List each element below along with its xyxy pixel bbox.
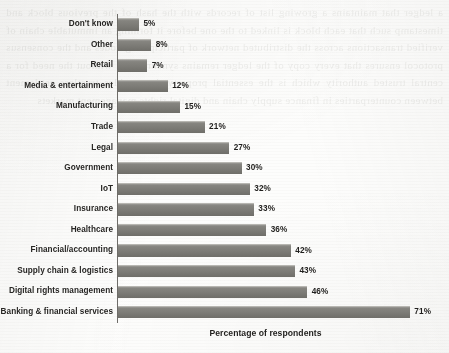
category-label: Digital rights management bbox=[9, 281, 113, 302]
bar bbox=[118, 183, 249, 195]
bar-and-value: 36% bbox=[118, 220, 287, 241]
bar-row: Other8% bbox=[0, 35, 449, 56]
category-label: Manufacturing bbox=[56, 96, 113, 117]
bar-and-value: 43% bbox=[118, 261, 316, 282]
bar-value-label: 36% bbox=[271, 224, 288, 236]
bar-row: Trade21% bbox=[0, 117, 449, 138]
bar-and-value: 32% bbox=[118, 179, 271, 200]
bar-value-label: 8% bbox=[156, 39, 168, 51]
category-label: Financial/accounting bbox=[31, 240, 113, 261]
category-label: Supply chain & logistics bbox=[17, 261, 113, 282]
bar-row: Banking & financial services71% bbox=[0, 302, 449, 323]
bar-and-value: 8% bbox=[118, 35, 167, 56]
bar bbox=[118, 306, 409, 318]
category-label: IoT bbox=[101, 179, 113, 200]
bar bbox=[118, 59, 147, 71]
bar-row: Media & entertainment12% bbox=[0, 76, 449, 97]
bar bbox=[118, 203, 253, 215]
bar-row: Don't know5% bbox=[0, 14, 449, 35]
bar bbox=[118, 162, 241, 174]
bar-row: Digital rights management46% bbox=[0, 281, 449, 302]
bar bbox=[118, 286, 307, 298]
bar-value-label: 30% bbox=[246, 162, 263, 174]
bar bbox=[118, 18, 139, 30]
bar-row: Manufacturing15% bbox=[0, 96, 449, 117]
bar-row: Healthcare36% bbox=[0, 220, 449, 241]
bar-and-value: 30% bbox=[118, 158, 262, 179]
bar bbox=[118, 142, 229, 154]
bar-value-label: 71% bbox=[414, 306, 431, 318]
bar bbox=[118, 101, 180, 113]
bar bbox=[118, 244, 290, 256]
bar-and-value: 15% bbox=[118, 96, 201, 117]
bar-value-label: 27% bbox=[234, 142, 251, 154]
bar-value-label: 7% bbox=[152, 60, 164, 72]
category-label: Legal bbox=[91, 138, 113, 159]
category-label: Retail bbox=[90, 55, 113, 76]
bar-and-value: 33% bbox=[118, 199, 275, 220]
category-label: Insurance bbox=[74, 199, 113, 220]
bar-and-value: 12% bbox=[118, 76, 188, 97]
bar-value-label: 43% bbox=[299, 265, 316, 277]
bar bbox=[118, 121, 204, 133]
bar-value-label: 21% bbox=[209, 121, 226, 133]
bar bbox=[118, 39, 151, 51]
bar-and-value: 42% bbox=[118, 240, 312, 261]
category-label: Banking & financial services bbox=[1, 302, 113, 323]
bar-and-value: 27% bbox=[118, 138, 250, 159]
bar-and-value: 21% bbox=[118, 117, 225, 138]
bar-row: Legal27% bbox=[0, 138, 449, 159]
bar-value-label: 15% bbox=[184, 101, 201, 113]
plot-area: Don't know5%Other8%Retail7%Media & enter… bbox=[0, 0, 449, 353]
bar-row: Insurance33% bbox=[0, 199, 449, 220]
bar-value-label: 5% bbox=[143, 18, 155, 30]
category-label: Trade bbox=[91, 117, 113, 138]
bar-value-label: 12% bbox=[172, 80, 189, 92]
bar bbox=[118, 265, 295, 277]
bar bbox=[118, 80, 167, 92]
category-label: Media & entertainment bbox=[24, 76, 113, 97]
bar-and-value: 71% bbox=[118, 302, 431, 323]
category-label: Healthcare bbox=[71, 220, 113, 241]
category-label: Don't know bbox=[69, 14, 113, 35]
bar bbox=[118, 224, 266, 236]
bar-row: Retail7% bbox=[0, 55, 449, 76]
bar-and-value: 46% bbox=[118, 281, 328, 302]
bar-row: IoT32% bbox=[0, 179, 449, 200]
bar-row: Supply chain & logistics43% bbox=[0, 261, 449, 282]
bar-and-value: 5% bbox=[118, 14, 155, 35]
bar-row: Financial/accounting42% bbox=[0, 240, 449, 261]
bar-value-label: 32% bbox=[254, 183, 271, 195]
category-label: Other bbox=[91, 35, 113, 56]
bar-chart-figure: a ledger that maintains a growing list o… bbox=[0, 0, 449, 353]
x-axis-title: Percentage of respondents bbox=[0, 328, 449, 338]
category-label: Government bbox=[64, 158, 113, 179]
bar-value-label: 33% bbox=[258, 203, 275, 215]
bar-value-label: 46% bbox=[312, 286, 329, 298]
bar-row: Government30% bbox=[0, 158, 449, 179]
bar-and-value: 7% bbox=[118, 55, 163, 76]
bar-value-label: 42% bbox=[295, 245, 312, 257]
